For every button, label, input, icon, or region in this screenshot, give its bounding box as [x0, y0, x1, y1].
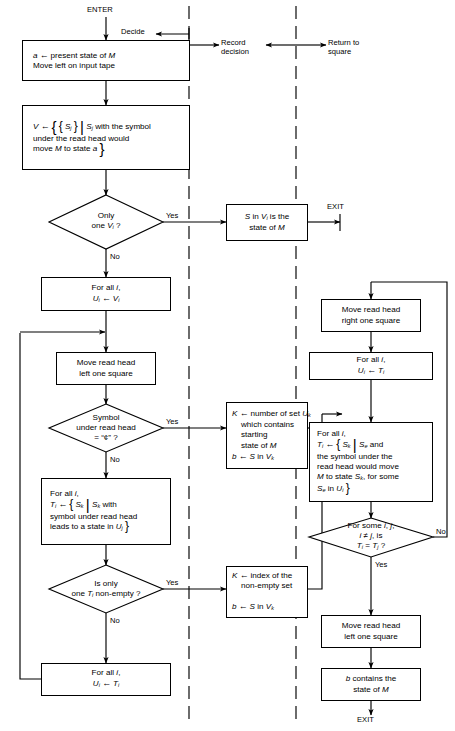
- decision-d1-line-1: one Vi ?: [56, 221, 156, 233]
- node-n14-line-1: state of M: [322, 685, 420, 695]
- node-n4-line-0: For all i,: [42, 283, 170, 293]
- node-n8-line-0: K ← index of the: [232, 570, 302, 581]
- node-n11[interactable]: For all i, Ui ← Ti: [309, 352, 433, 380]
- edge-label-no-d1: No: [110, 253, 120, 262]
- node-n7-line-3: leads to a state in Uj }: [50, 522, 162, 534]
- terminal-enter: ENTER: [87, 6, 113, 15]
- node-n2-line-2: move M to state a }: [33, 144, 179, 154]
- node-n6-line-4: b ← S in Vk: [232, 451, 302, 464]
- node-n8-line-2: [232, 591, 302, 601]
- node-n8-line-3: b ← S in Vk: [232, 601, 302, 614]
- node-n5-line-1: left one square: [57, 369, 155, 379]
- node-n7-line-0: For all i,: [50, 489, 162, 499]
- decision-d1-line-0: Only: [56, 211, 156, 221]
- node-n7-line-2: symbol under read head: [50, 512, 162, 522]
- node-n6-line-0: K ← number of set Uk: [232, 408, 302, 421]
- column-label-decide: Decide: [121, 28, 145, 37]
- node-n13-line-0: Move read head: [322, 621, 420, 631]
- decision-d1[interactable]: Only one Vi ?: [56, 203, 156, 241]
- node-n12-line-4: M to state Sk, for some: [317, 472, 425, 484]
- node-n4[interactable]: For all i, Ui ← Vi: [41, 277, 171, 311]
- edge-label-yes-d4: Yes: [375, 561, 387, 570]
- decision-d3-line-0: Is only: [38, 579, 174, 589]
- decision-d4[interactable]: For some i, j, i ≠ j, is Ti = Tj ?: [317, 521, 425, 553]
- node-n11-line-1: Ui ← Ti: [310, 365, 432, 378]
- node-n2-line-1: under the read head would: [33, 134, 179, 144]
- decision-d4-line-0: For some i, j,: [317, 521, 425, 531]
- node-n2-line-0: V ← { { Sj } | Sj with the symbol: [33, 121, 179, 134]
- node-n7[interactable]: For all i, Ti ← { Sk | Sk with symbol un…: [41, 478, 171, 545]
- node-n1-line-1: Move left on input tape: [33, 61, 179, 71]
- node-n13[interactable]: Move read head left one square: [321, 615, 421, 648]
- node-n12-line-1: Ti ← { Sk | Se and: [317, 439, 425, 452]
- flowchart-canvas: ENTER Decide Recorddecision Return tosqu…: [0, 0, 455, 731]
- node-n14-line-0: b contains the: [322, 674, 420, 684]
- edge-label-no-d3: No: [110, 617, 120, 626]
- node-n12-line-5: Se in Ui }: [317, 484, 425, 496]
- node-n6-line-3: state of M: [232, 441, 302, 451]
- node-n9[interactable]: For all i, Ui ← Ti: [41, 663, 171, 696]
- decision-d4-line-1: i ≠ j, is: [317, 531, 425, 541]
- column-label-record-decision: Recorddecision: [221, 39, 249, 56]
- edge-label-yes-d2: Yes: [166, 418, 178, 427]
- column-label-return-to-square: Return tosquare: [328, 39, 359, 56]
- node-n7-line-1: Ti ← { Sk | Sk with: [50, 499, 162, 512]
- edge-label-no-d4: No: [436, 528, 446, 537]
- node-n5[interactable]: Move read head left one square: [56, 352, 156, 385]
- node-n3[interactable]: S in Vi is the state of M: [226, 204, 308, 241]
- node-n10-line-0: Move read head: [322, 305, 420, 315]
- node-n12-line-2: the symbol under the: [317, 452, 425, 462]
- node-n10-line-1: right one square: [322, 316, 420, 326]
- node-n11-line-0: For all i,: [310, 355, 432, 365]
- node-n8-line-1: non-empty set: [232, 581, 302, 591]
- node-n5-line-0: Move read head: [57, 358, 155, 368]
- node-n8[interactable]: K ← index of the non-empty set b ← S in …: [226, 566, 308, 618]
- node-n6-line-2: starting: [232, 430, 302, 440]
- decision-d2-line-0: Symbol: [46, 413, 166, 423]
- node-n3-line-1: state of M: [227, 223, 307, 233]
- terminal-exit-bottom: EXIT: [357, 716, 374, 725]
- decision-d2-line-2: = “¢” ?: [46, 433, 166, 443]
- node-n1[interactable]: a ← present state of M Move left on inpu…: [22, 40, 190, 81]
- decision-d2-line-1: under read head: [46, 423, 166, 433]
- decision-d3[interactable]: Is only one Ti non-empty ?: [38, 578, 174, 602]
- node-n9-line-1: Ui ← Ti: [42, 678, 170, 691]
- node-n12-line-3: read head would move: [317, 462, 425, 472]
- node-n10[interactable]: Move read head right one square: [321, 299, 421, 332]
- terminal-exit-top: EXIT: [327, 203, 344, 212]
- node-n13-line-1: left one square: [322, 632, 420, 642]
- edge-label-yes-d1: Yes: [166, 212, 178, 221]
- edge-label-no-d2: No: [110, 456, 120, 465]
- node-n1-line-0: a ← present state of M: [33, 50, 179, 61]
- node-n12-line-0: For all i,: [317, 429, 425, 439]
- decision-d3-line-1: one Ti non-empty ?: [38, 589, 174, 601]
- node-n14[interactable]: b contains the state of M: [321, 668, 421, 701]
- node-n12[interactable]: For all i, Ti ← { Sk | Se and the symbol…: [309, 422, 433, 502]
- node-n2[interactable]: V ← { { Sj } | Sj with the symbol under …: [22, 105, 190, 170]
- node-n6[interactable]: K ← number of set Uk which contains star…: [226, 402, 308, 469]
- decision-d4-line-2: Ti = Tj ?: [317, 541, 425, 553]
- node-n6-line-1: which contains: [232, 420, 302, 430]
- decision-d2[interactable]: Symbol under read head = “¢” ?: [46, 411, 166, 445]
- node-n3-line-0: S in Vi is the: [227, 212, 307, 224]
- node-n4-line-1: Ui ← Vi: [42, 293, 170, 306]
- node-n9-line-0: For all i,: [42, 668, 170, 678]
